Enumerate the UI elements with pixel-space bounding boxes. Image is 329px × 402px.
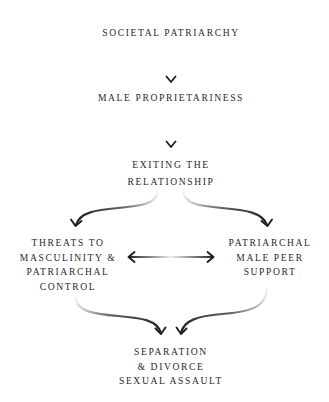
- node-line: EXITING THE: [101, 156, 241, 173]
- node-patriarchal-male-peer-support: PATRIARCHAL MALE PEER SUPPORT: [214, 236, 326, 280]
- arrow-societal-to-proprietariness: [167, 45, 176, 82]
- node-line: PATRIARCHAL: [8, 265, 128, 280]
- node-line: THREATS TO: [8, 236, 128, 251]
- node-exiting-relationship: EXITING THE RELATIONSHIP: [101, 156, 241, 190]
- node-line: MASCULINITY &: [8, 251, 128, 266]
- arrow-threats-peer-bidirectional: [129, 252, 214, 262]
- node-line: & DIVORCE: [101, 360, 241, 375]
- arrows-layer: [0, 0, 329, 402]
- arrow-peer-to-outcome: [177, 289, 268, 334]
- arrow-threats-to-outcome: [75, 297, 166, 334]
- node-line: SUPPORT: [214, 265, 326, 280]
- node-line: RELATIONSHIP: [101, 173, 241, 190]
- node-line: SEPARATION: [101, 345, 241, 360]
- arrow-exiting-to-threats: [71, 192, 158, 226]
- node-line: CONTROL: [8, 280, 128, 295]
- node-line: MALE PEER: [214, 251, 326, 266]
- node-societal-patriarchy: SOCIETAL PATRIARCHY: [71, 26, 271, 41]
- node-line: SOCIETAL PATRIARCHY: [71, 26, 271, 41]
- node-threats-to-masculinity: THREATS TO MASCULINITY & PATRIARCHAL CON…: [8, 236, 128, 294]
- node-line: PATRIARCHAL: [214, 236, 326, 251]
- arrow-proprietariness-to-exiting: [167, 110, 176, 147]
- node-male-proprietariness: MALE PROPRIETARINESS: [71, 91, 271, 106]
- node-line: MALE PROPRIETARINESS: [71, 91, 271, 106]
- arrow-exiting-to-peer: [183, 192, 272, 226]
- node-separation-divorce-sexual-assault: SEPARATION & DIVORCE SEXUAL ASSAULT: [101, 345, 241, 389]
- node-line: SEXUAL ASSAULT: [101, 374, 241, 389]
